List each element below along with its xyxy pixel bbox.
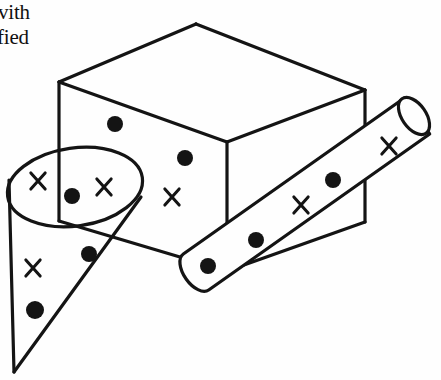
cross-marker-0 bbox=[31, 173, 45, 189]
figure-page: vith fied bbox=[0, 0, 441, 380]
dot-marker-5 bbox=[325, 172, 341, 188]
dot-marker-2 bbox=[64, 188, 80, 204]
dot-marker-6 bbox=[248, 232, 264, 248]
dot-marker-3 bbox=[81, 246, 97, 262]
dot-marker-1 bbox=[177, 150, 193, 166]
cross-marker-3 bbox=[26, 260, 40, 276]
geometry-figure bbox=[0, 0, 441, 380]
dot-marker-4 bbox=[26, 301, 44, 319]
dot-marker-0 bbox=[107, 116, 123, 132]
dot-marker-7 bbox=[200, 258, 216, 274]
